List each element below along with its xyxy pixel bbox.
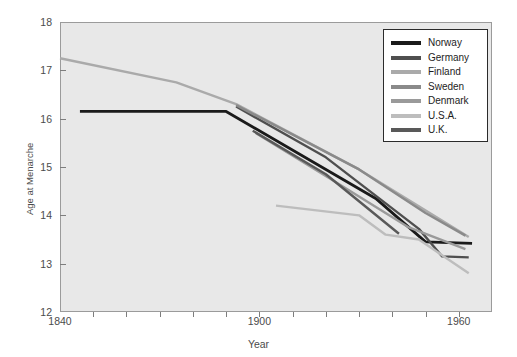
legend-swatch-icon [391, 85, 421, 89]
y-tick-mark [60, 167, 66, 168]
legend-swatch-icon [391, 128, 421, 132]
x-tick-mark [193, 312, 194, 317]
legend-swatch-icon [391, 114, 421, 118]
chart-container: 12131415161718 184019001960 Age at Menar… [0, 0, 517, 357]
y-tick-mark [60, 70, 66, 71]
legend-item[interactable]: Germany [391, 51, 480, 66]
x-tick-label: 1900 [229, 316, 289, 327]
y-axis-title: Age at Menarche [24, 143, 35, 215]
legend-swatch-icon [391, 70, 421, 74]
legend-label: U.K. [428, 125, 447, 135]
legend-item[interactable]: Sweden [391, 80, 480, 95]
legend-item[interactable]: Norway [391, 36, 480, 51]
legend-label: U.S.A. [428, 111, 457, 121]
x-tick-mark [392, 312, 393, 317]
legend-item[interactable]: Denmark [391, 94, 480, 109]
y-tick-mark [60, 215, 66, 216]
x-tick-mark [359, 312, 360, 317]
x-tick-mark [160, 312, 161, 317]
legend: NorwayGermanyFinlandSwedenDenmarkU.S.A.U… [383, 29, 488, 142]
legend-label: Denmark [428, 96, 469, 106]
legend-item[interactable]: U.K. [391, 123, 480, 138]
legend-swatch-icon [391, 41, 421, 45]
x-tick-mark [259, 312, 260, 317]
y-tick-label: 17 [28, 65, 52, 76]
x-tick-label: 1960 [429, 316, 489, 327]
y-tick-label: 16 [28, 114, 52, 125]
x-tick-mark [459, 312, 460, 317]
legend-swatch-icon [391, 99, 421, 103]
legend-label: Norway [428, 38, 462, 48]
legend-label: Germany [428, 53, 469, 63]
x-tick-mark [226, 312, 227, 317]
legend-label: Finland [428, 67, 461, 77]
legend-item[interactable]: Finland [391, 65, 480, 80]
y-tick-mark [60, 264, 66, 265]
y-tick-label: 18 [28, 17, 52, 28]
x-axis-title: Year [0, 338, 517, 350]
legend-label: Sweden [428, 82, 464, 92]
x-tick-label: 1840 [30, 316, 90, 327]
x-tick-mark [293, 312, 294, 317]
x-tick-mark [326, 312, 327, 317]
x-tick-mark [93, 312, 94, 317]
y-tick-mark [60, 119, 66, 120]
y-tick-label: 13 [28, 259, 52, 270]
legend-swatch-icon [391, 56, 421, 60]
x-tick-mark [126, 312, 127, 317]
legend-item[interactable]: U.S.A. [391, 109, 480, 124]
x-tick-mark [426, 312, 427, 317]
